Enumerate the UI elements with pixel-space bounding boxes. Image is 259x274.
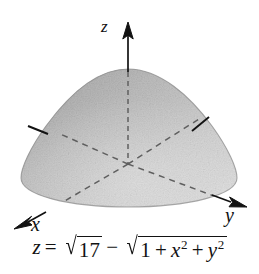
figure-root: z x y z = √ 17 − √ 1+x2+y2: [0, 0, 259, 274]
second-radicand: 1+x2+y2: [138, 236, 226, 263]
x-exponent: 2: [181, 237, 188, 252]
first-radical: √ 17: [63, 234, 102, 262]
surface-plot-area: z x y: [0, 0, 259, 232]
x-axis-label: x: [31, 214, 40, 234]
first-radicand: 17: [77, 236, 102, 263]
equation-equals: =: [41, 235, 61, 260]
y-axis-label: y: [225, 205, 234, 225]
y-axis-line: [212, 195, 231, 202]
equation-lhs: z: [32, 235, 40, 260]
term-y: y2: [208, 238, 225, 262]
x-axis-arrowhead: [14, 216, 32, 229]
term-one: 1: [140, 238, 151, 262]
equation: z = √ 17 − √ 1+x2+y2: [32, 234, 226, 262]
radicand-plus-2: +: [188, 238, 208, 262]
equation-minus: −: [102, 235, 122, 260]
radical-sign-icon-2: √: [127, 234, 138, 262]
radical-sign-icon: √: [65, 234, 76, 262]
term-x: x2: [171, 238, 188, 262]
first-radicand-value: 17: [79, 238, 100, 262]
equation-caption: z = √ 17 − √ 1+x2+y2: [0, 234, 259, 274]
y-exponent: 2: [218, 237, 225, 252]
radicand-plus-1: +: [151, 238, 171, 262]
dome-surface: [0, 55, 259, 220]
second-radical: √ 1+x2+y2: [124, 234, 226, 262]
z-axis-label: z: [101, 18, 108, 35]
surface-plot-svg: [0, 0, 259, 232]
